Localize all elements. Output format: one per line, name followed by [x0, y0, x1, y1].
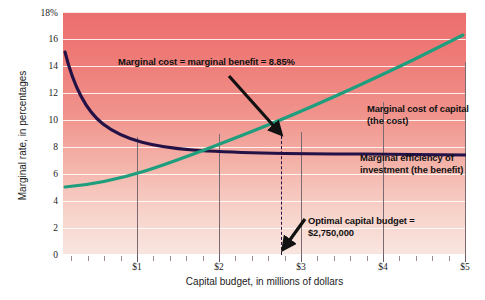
- y-tick-label-0: 0: [2, 250, 58, 260]
- mcc-series-label: Marginal cost of capital (the cost): [367, 103, 485, 126]
- y-tick-label-14: 14: [2, 61, 58, 71]
- tick-minor: [416, 256, 417, 261]
- tick-minor: [317, 256, 318, 261]
- tick-minor: [71, 256, 72, 261]
- tick-minor: [121, 256, 122, 261]
- tick-minor: [153, 256, 154, 261]
- tick-major-1: [137, 255, 138, 262]
- y-tick-label-12: 12: [2, 88, 58, 98]
- tick-minor: [285, 256, 286, 261]
- y-tick-label-6: 6: [2, 169, 58, 179]
- x-tick-label-4: $4: [378, 262, 388, 272]
- x-tick-label-1: $1: [132, 262, 142, 272]
- optimal-budget-annotation-label: Optimal capital budget = $2,750,000: [308, 215, 438, 238]
- y-tick-label-4: 4: [2, 196, 58, 206]
- mei-series-label: Marginal efficiency of investment (the b…: [360, 152, 485, 175]
- x-tick-label-5: $5: [460, 262, 470, 272]
- y-axis-tick-labels: 18% 16 14 12 10 8 6 4 2 0: [0, 0, 58, 300]
- tick-minor: [88, 256, 89, 261]
- tick-major-3: [301, 255, 302, 262]
- x-axis-ticks: [63, 255, 466, 262]
- tick-minor: [268, 256, 269, 261]
- y-tick-label-16: 16: [2, 34, 58, 44]
- tick-minor: [186, 256, 187, 261]
- tick-minor: [334, 256, 335, 261]
- tick-major-5: [465, 255, 466, 262]
- tick-minor: [203, 256, 204, 261]
- tick-major-2: [219, 255, 220, 262]
- tick-minor: [104, 256, 105, 261]
- x-axis-title: Capital budget, in millions of dollars: [63, 276, 466, 287]
- tick-minor: [367, 256, 368, 261]
- tick-minor: [350, 256, 351, 261]
- y-tick-label-18: 18%: [2, 8, 58, 18]
- equilibrium-annotation-label: Marginal cost = marginal benefit = 8.85%: [118, 56, 295, 68]
- x-tick-label-3: $3: [296, 262, 306, 272]
- tick-minor: [170, 256, 171, 261]
- y-tick-label-2: 2: [2, 223, 58, 233]
- y-tick-label-8: 8: [2, 142, 58, 152]
- tick-major-4: [383, 255, 384, 262]
- tick-minor: [449, 256, 450, 261]
- x-tick-label-2: $2: [214, 262, 224, 272]
- y-tick-label-10: 10: [2, 115, 58, 125]
- tick-minor: [235, 256, 236, 261]
- chart-figure: 18% 16 14 12 10 8 6 4 2 0 Marginal rate,…: [0, 0, 485, 300]
- tick-minor: [432, 256, 433, 261]
- y-axis-title: Marginal rate, in percentages: [17, 36, 28, 236]
- tick-minor: [399, 256, 400, 261]
- tick-minor: [252, 256, 253, 261]
